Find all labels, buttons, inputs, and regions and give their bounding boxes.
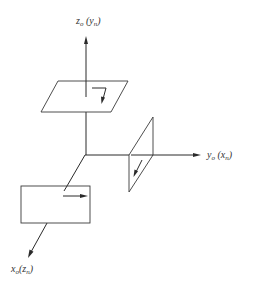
coordinate-diagram <box>0 0 253 289</box>
z-axis-label: zo (yn) <box>76 16 101 28</box>
z-axis-label-paren-sub: n <box>94 20 98 28</box>
y-axis-label-main-sub: o <box>211 154 215 162</box>
x-axis-label: xo(zn) <box>11 264 33 276</box>
front-plane <box>21 186 90 223</box>
z-axis-label-main-sub: o <box>80 20 84 28</box>
y-axis-label-paren-sub: n <box>225 154 229 162</box>
vertical-side-plane <box>129 117 153 192</box>
y-axis-arrowhead-icon <box>193 153 201 157</box>
z-axis-arrowhead-icon <box>84 36 88 44</box>
x-axis-label-main-sub: o <box>15 268 19 276</box>
x-axis-arrowhead-icon <box>28 250 34 259</box>
x-axis-label-paren-sub: n <box>26 268 30 276</box>
y-axis-label: yo (xn) <box>207 150 232 162</box>
horizontal-plane <box>41 81 128 112</box>
